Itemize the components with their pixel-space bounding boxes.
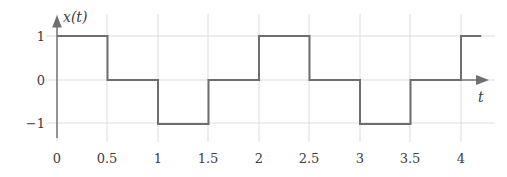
x-axis-label: t [478,90,484,104]
x-axis-arrow-icon [476,75,489,85]
y-tick-label-minus1: −1 [26,117,45,130]
y-axis [52,15,62,138]
y-tick-label-1: 1 [37,30,45,43]
x-tick-label-0p5: 0.5 [97,152,118,165]
x-tick-label-0: 0 [53,152,61,165]
x-tick-label-2p5: 2.5 [299,152,320,165]
y-axis-arrow-icon [52,15,62,28]
x-tick-label-1: 1 [154,152,162,165]
x-tick-label-4: 4 [457,152,465,165]
square-wave-chart-figure: x(t) t 1 0 −1 0 0.5 1 1.5 2 2.5 3 3.5 4 [0,0,507,177]
x-tick-label-3p5: 3.5 [400,152,421,165]
x-tick-label-1p5: 1.5 [198,152,219,165]
y-tick-label-0: 0 [37,74,45,87]
x-tick-label-3: 3 [356,152,364,165]
x-axis [461,75,489,85]
y-axis-label: x(t) [63,10,87,24]
x-tick-label-2: 2 [255,152,263,165]
plot-canvas [0,0,507,177]
